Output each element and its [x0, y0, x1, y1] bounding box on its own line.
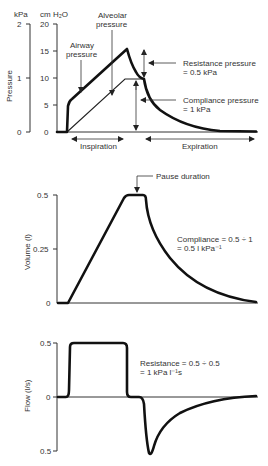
inspiration-label: Inspiration — [80, 142, 117, 151]
cmh2o-tick: 15 — [40, 47, 49, 56]
flow-resistance-value: = 1 kPa l⁻¹s — [140, 368, 182, 377]
volume-tick: 0.5 — [37, 191, 49, 200]
flow-tick: 0 — [46, 393, 51, 402]
volume-compliance-value: = 0.5 l kPa⁻¹ — [177, 244, 222, 253]
kpa-unit-label: kPa — [14, 10, 28, 19]
volume-tick: 0 — [46, 299, 51, 308]
compliance-pressure-label: Compliance pressure — [183, 96, 259, 105]
volume-chart: Volume (l) 0.5 0.25 0 Pause duration Com… — [23, 172, 258, 308]
flow-chart: Flow (l/s) 0.5 0 0.5 Resistance = 0.5 ÷ … — [23, 339, 258, 456]
alveolar-pressure-line — [67, 79, 143, 132]
pause-duration-arrow — [137, 176, 153, 192]
volume-tick: 0.25 — [33, 245, 49, 254]
alveolar-label: pressure — [96, 20, 128, 29]
flow-tick: 0.5 — [40, 339, 52, 348]
flow-ylabel: Flow (l/s) — [23, 379, 32, 412]
pause-duration-label: Pause duration — [156, 172, 210, 181]
flow-resistance-label: Resistance = 0.5 ÷ 0.5 — [140, 359, 220, 368]
pressure-ylabel: Pressure — [5, 69, 14, 102]
respiratory-mechanics-diagram: kPa cm H₂O Pressure 2 1 0 20 15 10 5 0 A… — [0, 0, 268, 466]
resistance-pressure-label: Resistance pressure — [183, 59, 256, 68]
resistance-pressure-value: = 0.5 kPa — [183, 68, 218, 77]
volume-compliance-label: Compliance = 0.5 ÷ 1 — [177, 235, 253, 244]
volume-line — [58, 195, 256, 303]
kpa-tick: 0 — [17, 128, 22, 137]
cmh2o-tick: 10 — [40, 74, 49, 83]
volume-ylabel: Volume (l) — [23, 234, 32, 270]
kpa-tick: 1 — [17, 74, 22, 83]
cmh2o-tick: 0 — [44, 128, 49, 137]
kpa-tick: 2 — [17, 20, 22, 29]
cmh2o-unit-label: cm H₂O — [40, 10, 68, 19]
flow-tick: 0.5 — [40, 447, 52, 456]
compliance-pressure-value: = 1 kPa — [183, 105, 211, 114]
alveolar-label: Alveolar — [98, 11, 127, 20]
airway-label: pressure — [66, 50, 98, 59]
airway-label: Airway — [70, 41, 94, 50]
expiration-label: Expiration — [182, 142, 218, 151]
cmh2o-tick: 20 — [40, 20, 49, 29]
cmh2o-tick: 5 — [44, 101, 49, 110]
pressure-chart: kPa cm H₂O Pressure 2 1 0 20 15 10 5 0 A… — [5, 10, 259, 151]
